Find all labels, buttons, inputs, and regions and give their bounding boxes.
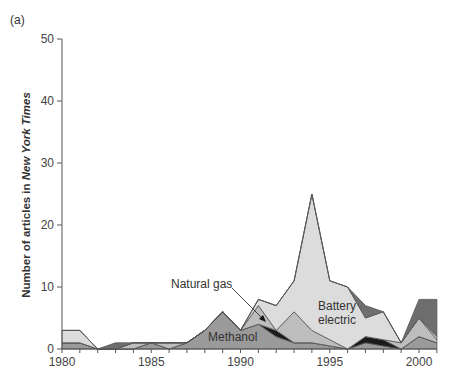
y-axis-title-italic: New York Times <box>20 92 32 180</box>
y-tick-label: 30 <box>41 156 55 170</box>
x-tick-label: 2000 <box>406 355 433 369</box>
annotation-battery: Battery <box>318 299 356 313</box>
x-ticks-group: 19801985199019952000 <box>49 349 437 369</box>
y-axis-title: Number of articles in New York Times <box>20 92 32 298</box>
areas-group <box>62 194 437 349</box>
x-tick-label: 1985 <box>138 355 165 369</box>
annotation-electric: electric <box>318 313 356 327</box>
y-tick-label: 40 <box>41 94 55 108</box>
x-tick-label: 1995 <box>316 355 343 369</box>
panel-label: (a) <box>10 13 25 27</box>
axes-group <box>62 39 437 349</box>
annotation-natural-gas: Natural gas <box>171 277 232 291</box>
y-axis-title-prefix: Number of articles in <box>20 180 32 298</box>
x-tick-label: 1990 <box>227 355 254 369</box>
y-ticks-group: 01020304050 <box>41 32 62 356</box>
y-tick-label: 20 <box>41 218 55 232</box>
area-chart: (a) 01020304050 19801985199019952000 Num… <box>0 0 457 392</box>
y-tick-label: 10 <box>41 280 55 294</box>
annotation-methanol: Methanol <box>208 330 257 344</box>
y-tick-label: 0 <box>47 342 54 356</box>
y-tick-label: 50 <box>41 32 55 46</box>
x-tick-label: 1980 <box>49 355 76 369</box>
